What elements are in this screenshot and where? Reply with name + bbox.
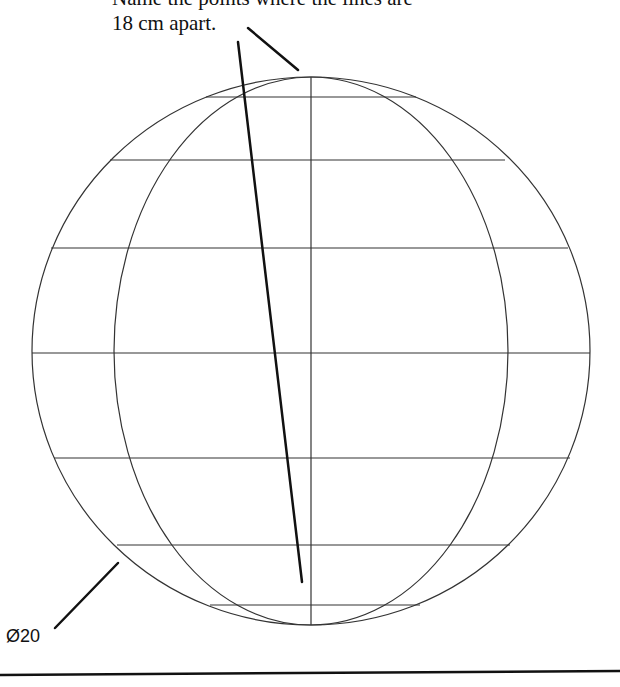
leader-line-short — [248, 28, 298, 70]
sphere-diagram — [0, 0, 620, 687]
bottom-rule — [0, 671, 620, 675]
diameter-leader — [55, 563, 118, 628]
leader-line-long — [238, 42, 302, 582]
